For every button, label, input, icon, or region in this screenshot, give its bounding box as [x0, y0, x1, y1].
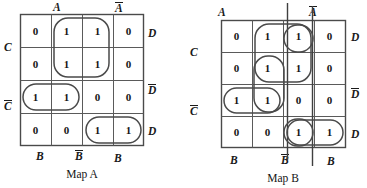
map-b-cell-r1c4: 0 [314, 31, 345, 42]
map-b-cell-r1c2: 1 [252, 31, 283, 42]
map-b-cell-r3c4: 0 [314, 95, 345, 106]
map-a-cell-r1c3: 1 [82, 26, 113, 37]
map-b-cell-r3c1: 1 [221, 95, 252, 106]
map-a-cell-r1c1: 0 [20, 26, 51, 37]
map-b-cell-r2c4: 0 [314, 63, 345, 74]
map-b-cell-r4c2: 0 [252, 127, 283, 138]
map-a-cell-r2c4: 0 [113, 59, 144, 70]
map-b-cell-r3c3: 0 [283, 95, 314, 106]
map-a: A A C C D D D B B B [0, 0, 184, 188]
map-a-cell-r3c3: 0 [82, 92, 113, 103]
map-a-cell-r4c1: 0 [20, 125, 51, 136]
map-b-cell-r4c3: 1 [283, 127, 314, 138]
map-a-cell-r2c2: 1 [51, 59, 82, 70]
map-b-cell-r2c2: 1 [252, 63, 283, 74]
map-b: A A C C D D D B B B [183, 0, 367, 188]
map-b-cell-r2c1: 0 [221, 63, 252, 74]
map-a-cell-r3c1: 1 [20, 92, 51, 103]
map-b-cell-r3c2: 1 [252, 95, 283, 106]
map-a-cell-r2c3: 1 [82, 59, 113, 70]
map-b-cell-r4c1: 0 [221, 127, 252, 138]
map-a-cell-r1c2: 1 [51, 26, 82, 37]
map-b-cell-r4c4: 1 [314, 127, 345, 138]
map-a-cell-r3c4: 0 [113, 92, 144, 103]
map-a-cell-r4c2: 0 [51, 125, 82, 136]
map-b-cell-r1c3: 1 [283, 31, 314, 42]
map-a-cell-r3c2: 1 [51, 92, 82, 103]
map-b-canvas [183, 0, 367, 188]
map-a-caption: Map A [52, 169, 112, 181]
map-b-cell-r1c1: 0 [221, 31, 252, 42]
map-a-cell-r1c4: 0 [113, 26, 144, 37]
map-a-cell-r4c3: 1 [82, 125, 113, 136]
map-a-cell-r2c1: 0 [20, 59, 51, 70]
map-a-cell-r4c4: 1 [113, 125, 144, 136]
map-b-cell-r2c3: 1 [283, 63, 314, 74]
karnaugh-map-figure: A A C C D D D B B B [0, 0, 367, 188]
map-b-caption: Map B [253, 173, 313, 185]
